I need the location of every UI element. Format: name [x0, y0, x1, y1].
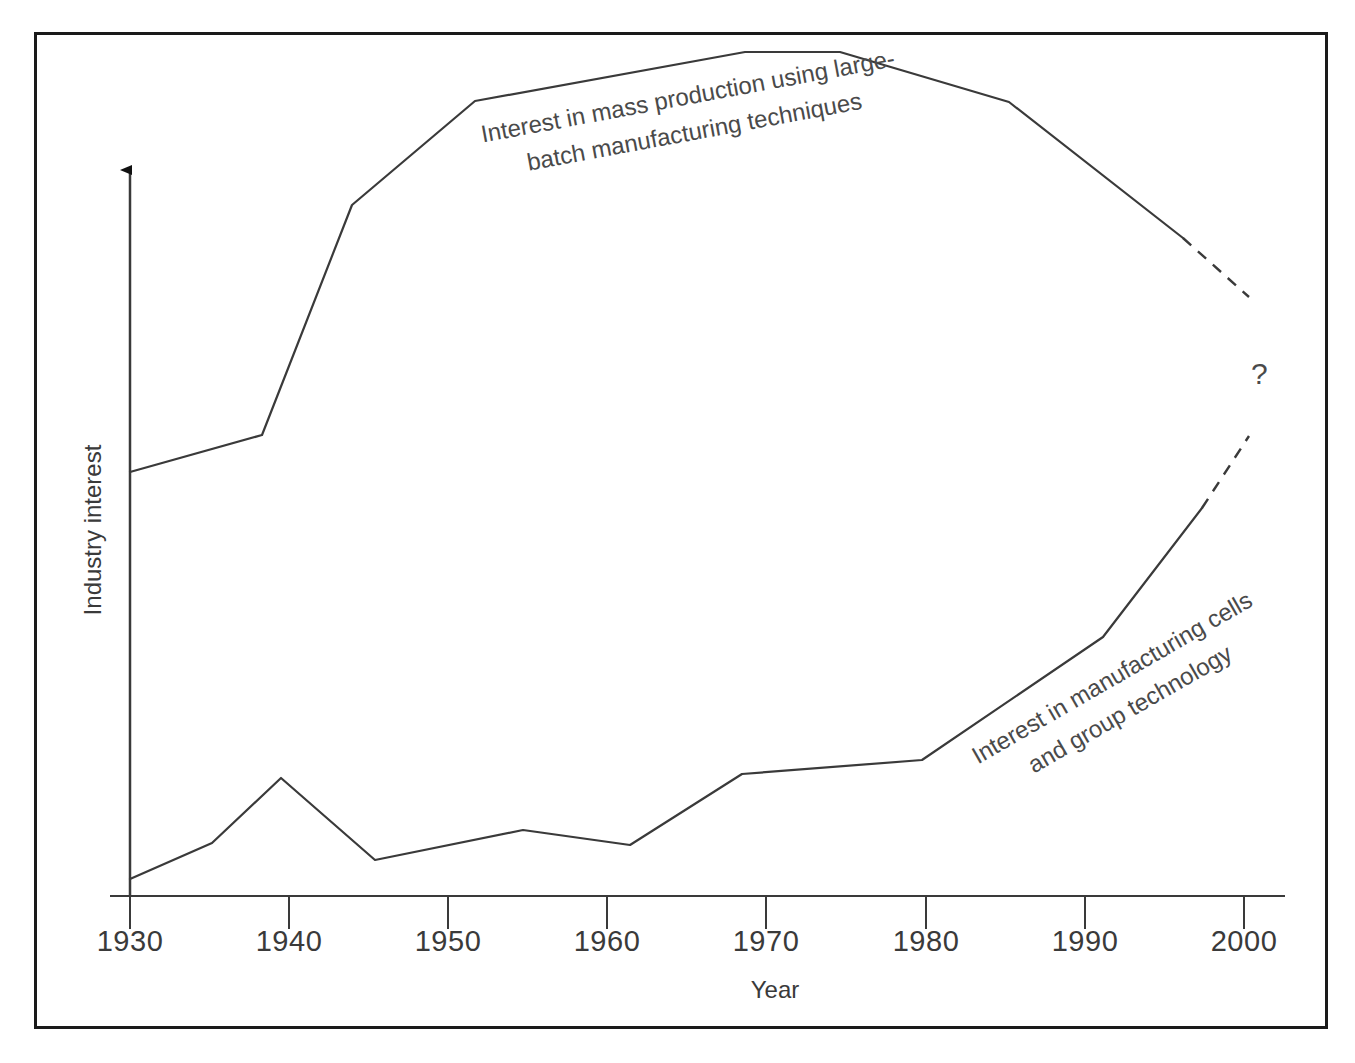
series-manufacturing-cells-solid	[130, 508, 1202, 879]
x-tick-label-1970: 1970	[733, 925, 800, 958]
series-manufacturing-cells-dashed	[1202, 436, 1249, 508]
series-mass-production-dashed	[1183, 238, 1249, 297]
x-tick-label-2000: 2000	[1211, 925, 1278, 958]
figure-container: 1930 1940 1950 1960 1970 1980 1990 2000 …	[0, 0, 1355, 1063]
x-tick-label-1980: 1980	[893, 925, 960, 958]
x-tick-label-1990: 1990	[1052, 925, 1119, 958]
x-tick-label-1940: 1940	[256, 925, 323, 958]
chart-plot-area	[0, 0, 1355, 1063]
x-tick-label-1930: 1930	[97, 925, 164, 958]
x-tick-label-1950: 1950	[415, 925, 482, 958]
x-axis-title: Year	[751, 976, 800, 1004]
y-axis-title: Industry interest	[79, 445, 107, 616]
x-tick-label-1960: 1960	[574, 925, 641, 958]
future-uncertainty-marker: ?	[1251, 357, 1268, 391]
